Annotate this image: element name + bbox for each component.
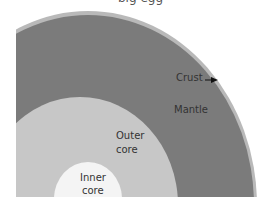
earth-cross-section: Crust Mantle Outer core Inner core — [0, 0, 262, 210]
outer-core-label-line1: Outer — [116, 130, 145, 141]
outer-core-label-line2: core — [116, 144, 138, 155]
inner-core-label-line1: Inner — [80, 172, 107, 183]
mantle-label: Mantle — [174, 104, 208, 115]
inner-core-label-line2: core — [82, 185, 104, 196]
crust-label: Crust — [176, 72, 203, 83]
